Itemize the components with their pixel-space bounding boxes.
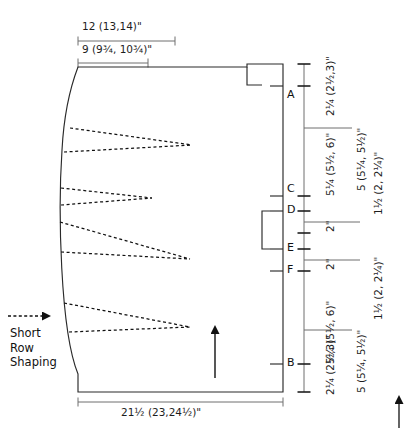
measure-label-outer-lower: 1½ (2, 2¼)": [372, 257, 384, 320]
point-label-a: A: [287, 88, 295, 101]
measure-label-outer-bottom: 5 (5¼, 5½)": [355, 330, 367, 393]
measure-label-a-top: 2¼ (2½,3)": [324, 56, 336, 116]
top-dimension-upper-label: 12 (13,14)": [82, 20, 142, 32]
point-label-b: B: [287, 356, 295, 369]
measure-label-e-f: 2": [324, 258, 336, 270]
point-label-e: E: [287, 241, 294, 254]
short-row-shaping-line3: Shaping: [10, 355, 57, 370]
top-dimension-lower-label: 9 (9¾, 10¾)": [82, 43, 152, 55]
point-label-c: C: [287, 182, 295, 195]
measure-label-outer-top: 5 (5¼, 5½)": [355, 128, 367, 191]
measure-label-b-bottom: 2¼ (2½,3)": [324, 335, 336, 395]
bottom-dimension-label: 21½ (23,24½)": [121, 406, 201, 418]
shoulder-step: [247, 67, 262, 85]
measure-label-outer-middle: 1½ (2, 2¼)": [372, 152, 384, 215]
schematic-canvas: 12 (13,14)" 9 (9¾, 10¾)" 21½ (23,24½)" A…: [0, 0, 405, 428]
point-label-d: D: [287, 203, 295, 216]
garment-outline: [60, 64, 283, 392]
short-row-wedges: [60, 128, 192, 332]
short-row-shaping-line1: Short: [10, 326, 57, 341]
point-label-f: F: [287, 263, 293, 276]
measure-label-a-c: 5¼ (5½, 6)": [324, 133, 336, 196]
measure-label-c-d: 2": [324, 220, 336, 232]
short-row-shaping-line2: Row: [10, 341, 57, 356]
inner-bracket: [262, 86, 283, 364]
schematic-drawing: [0, 0, 405, 428]
short-row-shaping-annotation: Short Row Shaping: [10, 326, 57, 370]
